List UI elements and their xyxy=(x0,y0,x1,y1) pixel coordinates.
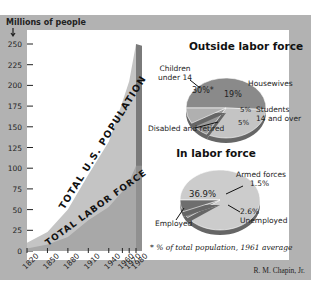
value-employed: 36.9% xyxy=(189,189,216,199)
pie2-title: In labor force xyxy=(176,147,256,159)
y-tick-label: 225 xyxy=(8,61,23,70)
x-tick-label: 1850 xyxy=(41,251,61,271)
y-axis-title: Millions of people xyxy=(6,18,87,27)
value-children: 30%* xyxy=(192,86,214,95)
y-tick-label: 200 xyxy=(8,81,23,90)
label-students-2: 14 and over xyxy=(256,114,302,123)
x-tick-label: 1820 xyxy=(21,251,41,271)
y-tick-label: 75 xyxy=(12,185,22,194)
chart-svg: 0255075100125150175200225250182018501880… xyxy=(0,0,329,296)
label-armed-forces: Armed forces xyxy=(236,170,286,179)
y-tick-label: 125 xyxy=(8,144,23,153)
y-tick-label: 175 xyxy=(8,102,23,111)
y-tick-label: 250 xyxy=(8,40,23,49)
credit: R. M. Chapin, Jr. xyxy=(254,266,306,275)
value-students: 5% xyxy=(240,106,251,114)
y-tick-label: 50 xyxy=(12,206,22,215)
y-tick-label: 0 xyxy=(17,247,22,256)
value-disabled: 5% xyxy=(238,119,249,127)
label-employed: Employed xyxy=(155,219,193,228)
x-tick-label: 1880 xyxy=(62,251,82,271)
y-tick-label: 150 xyxy=(8,123,23,132)
label-children-2: under 14 xyxy=(158,73,192,82)
area-chart: 0255075100125150175200225250182018501880… xyxy=(8,40,150,271)
y-axis-arrow-icon xyxy=(11,28,15,36)
x-tick-label: 1910 xyxy=(82,251,102,271)
y-tick-label: 25 xyxy=(12,226,22,235)
label-children-1: Children xyxy=(159,64,190,73)
footnote: * % of total population, 1961 average xyxy=(150,243,293,252)
label-disabled: Disabled and retired xyxy=(148,124,225,133)
label-housewives: Housewives xyxy=(248,79,293,88)
y-tick-label: 100 xyxy=(8,164,23,173)
value-armed-forces: 1.5% xyxy=(250,179,269,188)
label-students-1: Students xyxy=(256,105,290,114)
value-housewives: 19% xyxy=(224,90,242,99)
value-unemployed: 2.6% xyxy=(240,207,259,216)
pie1-title: Outside labor force xyxy=(189,40,303,52)
label-unemployed: Unemployed xyxy=(240,216,288,225)
